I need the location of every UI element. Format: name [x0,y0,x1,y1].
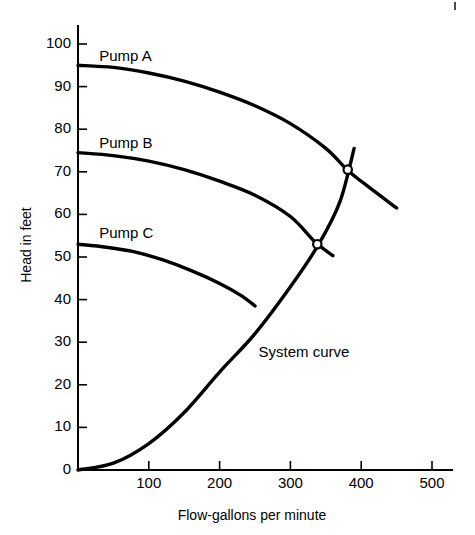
y-axis: 0102030405060708090100 Head in feet [18,26,87,477]
pump-system-curve-figure: 0102030405060708090100 Head in feet 1002… [0,0,475,535]
x-axis-title: Flow-gallons per minute [178,507,327,523]
curve-label-pump-c: Pump C [99,224,153,241]
x-axis-ticks [149,461,432,470]
x-tick-label-200: 200 [207,474,232,491]
x-axis: 100200300400500 Flow-gallons per minute [78,461,452,523]
curve-label-pump-a: Pump A [99,47,152,64]
x-axis-tick-labels: 100200300400500 [136,474,444,491]
y-axis-tick-labels: 0102030405060708090100 [46,34,71,477]
y-tick-label-0: 0 [63,460,71,477]
y-tick-label-40: 40 [54,290,71,307]
y-tick-label-90: 90 [54,77,71,94]
pump-curve-chart: 0102030405060708090100 Head in feet 1002… [0,0,475,535]
y-tick-label-30: 30 [54,332,71,349]
y-tick-label-70: 70 [54,162,71,179]
curve-label-pump-b: Pump B [99,134,152,151]
x-tick-label-400: 400 [349,474,374,491]
y-tick-label-10: 10 [54,417,71,434]
y-axis-title: Head in feet [18,207,34,283]
curve-label-system-curve: System curve [259,343,350,360]
y-axis-ticks [78,44,87,470]
curve-system-curve [78,148,354,470]
curve-pump-c [78,244,255,306]
y-tick-label-80: 80 [54,119,71,136]
y-tick-label-50: 50 [54,247,71,264]
operating-point-marker-2 [313,240,321,248]
y-tick-label-100: 100 [46,34,71,51]
x-tick-label-100: 100 [136,474,161,491]
x-tick-label-500: 500 [419,474,444,491]
operating-point-marker-1 [344,165,352,173]
y-tick-label-60: 60 [54,204,71,221]
y-tick-label-20: 20 [54,375,71,392]
x-tick-label-300: 300 [278,474,303,491]
curve-group [78,65,397,470]
